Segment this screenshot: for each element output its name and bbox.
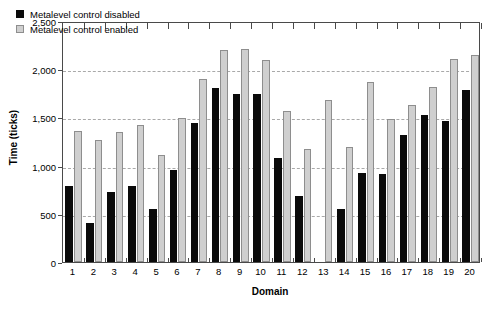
top-tick-mark (272, 23, 273, 29)
y-tick-mark (58, 263, 62, 264)
x-tick-mark (168, 258, 169, 262)
x-tick-label-17: 17 (402, 266, 413, 277)
legend-label-enabled: Metalevel control enabled (30, 24, 138, 35)
bar-disabled-5 (149, 209, 157, 262)
black-square-swatch (16, 10, 24, 18)
bar-enabled-12 (304, 149, 312, 262)
bar-enabled-14 (346, 147, 354, 262)
y-tick-label: 1,500 (4, 113, 56, 124)
x-tick-label-9: 9 (237, 266, 242, 277)
y-axis-title: Time (ticks) (8, 78, 19, 198)
x-tick-mark (335, 258, 336, 262)
plot-area (62, 22, 480, 263)
top-tick-mark (168, 23, 169, 29)
top-tick-mark (314, 23, 315, 29)
bar-disabled-2 (86, 223, 94, 262)
x-tick-mark (84, 258, 85, 262)
bar-chart-figure: Time (ticks) 05001,0001,5002,0002,500 12… (0, 0, 496, 316)
top-tick-mark (147, 23, 148, 29)
bar-disabled-16 (379, 174, 387, 262)
x-axis-title: Domain (60, 286, 480, 297)
x-tick-mark (105, 258, 106, 262)
x-tick-mark (377, 258, 378, 262)
top-tick-mark (377, 23, 378, 29)
bar-disabled-18 (421, 115, 429, 262)
x-tick-label-13: 13 (318, 266, 329, 277)
x-tick-mark (314, 258, 315, 262)
gridline (63, 119, 479, 120)
bar-disabled-4 (128, 186, 136, 262)
bar-disabled-6 (170, 170, 178, 262)
top-tick-mark (397, 23, 398, 29)
x-tick-label-12: 12 (297, 266, 308, 277)
bar-enabled-8 (220, 50, 228, 262)
bar-enabled-7 (199, 79, 207, 262)
top-tick-mark (335, 23, 336, 29)
bar-enabled-19 (450, 59, 458, 262)
y-tick-label: 500 (4, 209, 56, 220)
bar-disabled-1 (65, 186, 73, 262)
bar-enabled-6 (178, 118, 186, 262)
legend-item-enabled: Metalevel control enabled (16, 22, 140, 36)
y-tick-mark (58, 215, 62, 216)
top-tick-mark (188, 23, 189, 29)
x-tick-mark (188, 258, 189, 262)
gridline (63, 216, 479, 217)
top-tick-mark (481, 23, 482, 29)
bar-disabled-19 (442, 121, 450, 262)
top-tick-mark (418, 23, 419, 29)
x-tick-label-8: 8 (216, 266, 221, 277)
y-tick-label: 1,000 (4, 161, 56, 172)
top-tick-mark (356, 23, 357, 29)
x-tick-mark (147, 258, 148, 262)
bar-enabled-10 (262, 60, 270, 262)
bar-enabled-13 (325, 100, 333, 262)
bar-enabled-5 (158, 155, 166, 262)
y-tick-mark (58, 118, 62, 119)
bar-disabled-12 (295, 196, 303, 262)
bar-enabled-17 (408, 105, 416, 262)
gray-square-swatch (16, 25, 24, 33)
x-tick-mark (251, 258, 252, 262)
x-tick-mark (126, 258, 127, 262)
bar-disabled-17 (400, 135, 408, 262)
x-tick-mark (230, 258, 231, 262)
x-tick-label-20: 20 (464, 266, 475, 277)
legend-item-disabled: Metalevel control disabled (16, 7, 140, 21)
x-tick-label-4: 4 (132, 266, 137, 277)
y-tick-label: 0 (4, 258, 56, 269)
bar-enabled-2 (95, 140, 103, 262)
bar-enabled-3 (116, 132, 124, 262)
x-tick-label-19: 19 (443, 266, 454, 277)
bar-disabled-7 (191, 123, 199, 262)
bar-disabled-15 (358, 173, 366, 262)
bar-disabled-9 (233, 94, 241, 262)
y-tick-mark (58, 70, 62, 71)
y-tick-label: 2,000 (4, 65, 56, 76)
top-tick-mark (293, 23, 294, 29)
x-tick-mark (418, 258, 419, 262)
bar-enabled-11 (283, 111, 291, 262)
x-tick-label-14: 14 (339, 266, 350, 277)
top-tick-mark (209, 23, 210, 29)
chart-legend: Metalevel control disabled Metalevel con… (16, 7, 140, 37)
x-tick-label-10: 10 (255, 266, 266, 277)
top-tick-mark (230, 23, 231, 29)
bar-disabled-3 (107, 192, 115, 262)
gridline (63, 168, 479, 169)
x-tick-mark (272, 258, 273, 262)
top-tick-mark (439, 23, 440, 29)
x-tick-mark (397, 258, 398, 262)
x-tick-mark (209, 258, 210, 262)
bar-disabled-11 (274, 158, 282, 262)
x-tick-mark (460, 258, 461, 262)
x-tick-label-18: 18 (422, 266, 433, 277)
x-tick-label-15: 15 (360, 266, 371, 277)
bar-enabled-1 (74, 131, 82, 262)
top-tick-mark (460, 23, 461, 29)
x-tick-label-6: 6 (174, 266, 179, 277)
y-tick-mark (58, 167, 62, 168)
x-tick-mark (293, 258, 294, 262)
bar-enabled-16 (387, 119, 395, 262)
gridline (63, 71, 479, 72)
